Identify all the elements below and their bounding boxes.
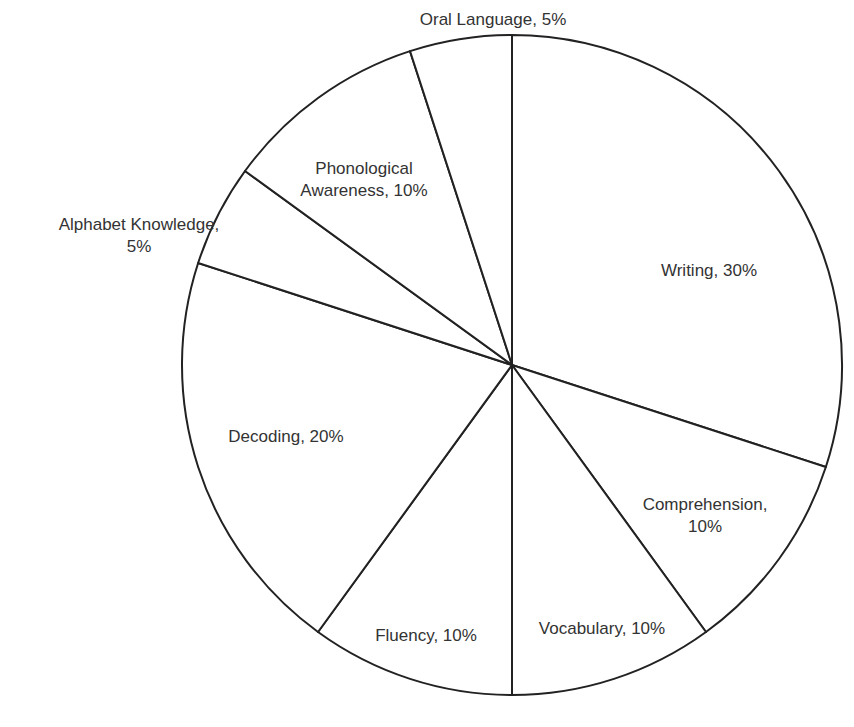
slice-label-oral-language: Oral Language, 5% — [420, 9, 567, 31]
slice-label-decoding: Decoding, 20% — [228, 426, 343, 448]
slice-label-comprehension: Comprehension, 10% — [643, 494, 768, 538]
slice-label-fluency: Fluency, 10% — [375, 625, 477, 647]
pie-chart — [0, 0, 854, 727]
slice-label-vocabulary: Vocabulary, 10% — [539, 618, 665, 640]
slice-label-alphabet-knowledge: Alphabet Knowledge, 5% — [59, 214, 220, 258]
slice-label-writing: Writing, 30% — [661, 260, 757, 282]
slice-label-phonological-awareness: Phonological Awareness, 10% — [300, 158, 427, 202]
pie-slices — [182, 35, 842, 695]
